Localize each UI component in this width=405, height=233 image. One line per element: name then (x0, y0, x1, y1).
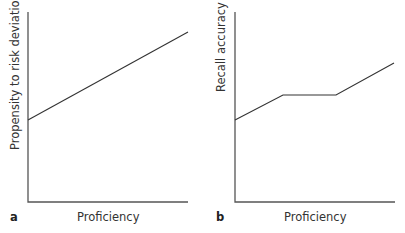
panel-a-y-axis-label: Propensity to risk deviation (8, 0, 22, 150)
panel-b: Recall accuracy Proficiency b (200, 0, 405, 233)
panel-a: Propensity to risk deviation Proficiency… (0, 0, 200, 233)
panel-b-tag: b (216, 210, 224, 224)
panel-b-plot (200, 0, 405, 233)
panel-a-tag: a (10, 210, 18, 224)
panel-a-plot (0, 0, 200, 233)
panel-b-x-axis-label: Proficiency (284, 210, 347, 224)
panel-a-line (28, 32, 188, 120)
panel-a-x-axis-label: Proficiency (77, 210, 140, 224)
panel-b-line (235, 63, 394, 120)
panel-b-y-axis-label: Recall accuracy (214, 2, 228, 92)
